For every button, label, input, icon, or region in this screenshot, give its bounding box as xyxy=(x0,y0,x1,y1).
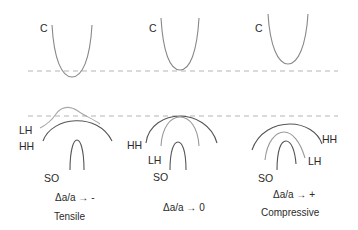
compressive-conduction-band xyxy=(268,14,308,64)
tensile-caption: Tensile xyxy=(54,212,85,222)
unstrained-so-label: SO xyxy=(153,172,168,183)
unstrained-strain-label: Δa/a → 0 xyxy=(163,203,205,213)
unstrained-hh-band xyxy=(146,116,217,143)
unstrained-so-band xyxy=(170,142,186,170)
unstrained-conduction-band xyxy=(161,18,199,70)
compressive-strain-label: Δa/a → + xyxy=(273,190,315,200)
compressive-so-band xyxy=(277,141,296,170)
tensile-conduction-band xyxy=(52,25,92,77)
compressive-c-label: C xyxy=(255,23,263,34)
tensile-strain-label: Δa/a → - xyxy=(55,193,94,203)
tensile-lh-label: LH xyxy=(19,125,32,136)
unstrained-lh-label: LH xyxy=(148,155,161,166)
tensile-lh-band xyxy=(40,108,100,128)
compressive-hh-label: HH xyxy=(322,134,337,145)
tensile-so-label: SO xyxy=(44,173,59,184)
tensile-hh-label: HH xyxy=(19,141,34,152)
unstrained-lh-band xyxy=(161,117,199,146)
compressive-lh-band xyxy=(265,132,305,160)
tensile-c-label: C xyxy=(40,23,48,34)
tensile-hh-band xyxy=(43,121,112,141)
compressive-caption: Compressive xyxy=(261,208,319,218)
compressive-hh-band xyxy=(252,124,322,150)
unstrained-c-label: C xyxy=(149,23,157,34)
compressive-lh-label: LH xyxy=(308,156,321,167)
compressive-so-label: SO xyxy=(258,173,273,184)
unstrained-hh-label: HH xyxy=(127,140,142,151)
tensile-so-band xyxy=(70,140,84,170)
